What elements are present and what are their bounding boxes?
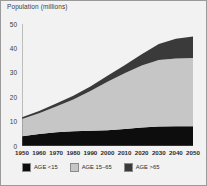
y-tick-label: 50: [3, 21, 17, 28]
y-tick-label: 10: [3, 118, 17, 125]
chart-card: Population (millions) 01020304050 195019…: [0, 0, 207, 186]
legend-label: AGE 15–65: [82, 164, 112, 170]
chart-legend: AGE <15AGE 15–65AGE >65: [22, 161, 193, 173]
legend-label: AGE <15: [34, 164, 58, 170]
legend-swatch-icon: [124, 163, 133, 172]
y-tick-label: 30: [3, 69, 17, 76]
chart-title: Population (millions): [7, 3, 68, 10]
y-tick-label: 20: [3, 94, 17, 101]
x-tick-label: 2050: [182, 149, 204, 156]
legend-item[interactable]: AGE >65: [124, 163, 160, 172]
stacked-area-svg: [22, 24, 193, 146]
legend-item[interactable]: AGE 15–65: [70, 163, 112, 172]
legend-swatch-icon: [70, 163, 79, 172]
area-series: [22, 58, 193, 136]
plot-area: [22, 24, 193, 146]
legend-swatch-icon: [22, 163, 31, 172]
legend-item[interactable]: AGE <15: [22, 163, 58, 172]
legend-label: AGE >65: [136, 164, 160, 170]
y-tick-label: 40: [3, 45, 17, 52]
